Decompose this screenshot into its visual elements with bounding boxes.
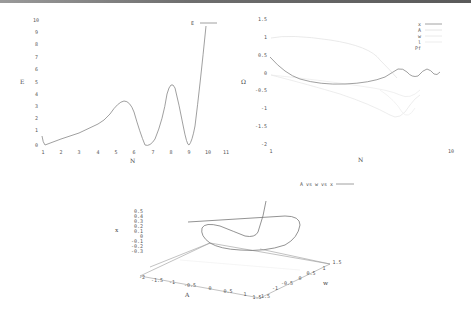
svg-text:1.5: 1.5 xyxy=(258,16,267,22)
svg-text:3: 3 xyxy=(77,149,80,155)
svg-text:-1: -1 xyxy=(169,279,175,285)
svg-text:-0.3: -0.3 xyxy=(131,248,143,254)
svg-text:1: 1 xyxy=(41,149,44,155)
svg-text:-2: -2 xyxy=(139,274,145,280)
svg-text:0.5: 0.5 xyxy=(306,270,315,276)
svg-text:3: 3 xyxy=(35,103,38,109)
series-x-line xyxy=(270,57,440,84)
x-axis-label: N xyxy=(358,156,363,163)
svg-text:Pf: Pf xyxy=(415,45,421,51)
svg-text:1: 1 xyxy=(35,127,38,133)
svg-text:4: 4 xyxy=(35,91,38,97)
svg-text:1: 1 xyxy=(264,34,267,40)
svg-text:-1.5: -1.5 xyxy=(151,277,163,283)
svg-text:7: 7 xyxy=(35,54,38,60)
x-tick-labels: 1 2 3 4 5 6 7 8 9 10 11 xyxy=(41,149,229,155)
legend-label: A vs w vs x xyxy=(300,181,333,187)
svg-text:8: 8 xyxy=(169,149,172,155)
chart-energy: 0 1 2 3 4 5 6 7 8 9 10 E 1 2 3 4 5 6 7 8… xyxy=(20,17,229,164)
svg-text:8: 8 xyxy=(35,41,38,47)
svg-text:-0.5: -0.5 xyxy=(184,282,196,288)
svg-text:4: 4 xyxy=(96,149,99,155)
x-tick-10: 10 xyxy=(448,148,454,154)
svg-text:0: 0 xyxy=(35,142,38,148)
y-tick-labels: 0 1 2 3 4 5 6 7 8 9 10 xyxy=(33,17,39,148)
chart-omega: 1.5 1 0.5 0 -0.5 -1 -1.5 -2 Ω 1 10 N x A… xyxy=(241,16,454,163)
chart-3d: A vs w vs x 0.5 0.4 0.3 0.2 0.1 0 -0.1 -… xyxy=(115,181,354,300)
svg-text:-1: -1 xyxy=(261,105,267,111)
svg-text:9: 9 xyxy=(187,149,190,155)
z-tick-labels: 0.5 0.4 0.3 0.2 0.1 0 -0.1 -0.2 -0.3 xyxy=(131,208,143,254)
svg-text:9: 9 xyxy=(35,29,38,35)
svg-text:-0.5: -0.5 xyxy=(255,87,267,93)
svg-text:5: 5 xyxy=(35,79,38,85)
x-tick-1: 1 xyxy=(269,148,272,154)
z-axis-label: x xyxy=(115,226,119,233)
legend-label-e: E xyxy=(191,20,194,26)
svg-text:10: 10 xyxy=(33,17,39,23)
svg-text:6: 6 xyxy=(35,66,38,72)
a-axis-label: A xyxy=(184,291,190,298)
legend: x A w l Pf xyxy=(415,21,442,51)
svg-text:0: 0 xyxy=(298,275,301,281)
svg-text:-0.5: -0.5 xyxy=(281,280,293,286)
base-plane xyxy=(140,243,330,298)
svg-text:0.5: 0.5 xyxy=(223,288,232,294)
y-tick-labels: 1.5 1 0.5 0 -0.5 -1 -1.5 -2 xyxy=(255,16,267,147)
svg-text:2: 2 xyxy=(59,149,62,155)
series-3d-line xyxy=(188,201,300,250)
svg-text:5: 5 xyxy=(114,149,117,155)
svg-text:11: 11 xyxy=(223,149,229,155)
svg-text:0.5: 0.5 xyxy=(258,52,267,58)
series-l-line xyxy=(271,75,420,117)
svg-text:0: 0 xyxy=(208,285,211,291)
svg-text:2: 2 xyxy=(35,115,38,121)
svg-text:1.5: 1.5 xyxy=(332,259,341,265)
svg-text:-1.5: -1.5 xyxy=(258,293,270,299)
y-axis-label: Ω xyxy=(241,78,246,85)
svg-text:-1: -1 xyxy=(272,285,278,291)
svg-text:6: 6 xyxy=(132,149,135,155)
series-e-line xyxy=(42,26,206,145)
svg-text:1: 1 xyxy=(322,265,325,271)
figure: 0 1 2 3 4 5 6 7 8 9 10 E 1 2 3 4 5 6 7 8… xyxy=(0,0,471,311)
y-axis-label: E xyxy=(20,78,24,85)
series-w-line xyxy=(271,75,420,97)
svg-text:0: 0 xyxy=(264,70,267,76)
series-a-line xyxy=(271,36,397,78)
svg-text:-2: -2 xyxy=(261,141,267,147)
svg-text:-1.5: -1.5 xyxy=(255,123,267,129)
svg-text:1: 1 xyxy=(243,291,246,297)
w-axis-label: w xyxy=(323,279,329,286)
x-axis-label: N xyxy=(130,157,135,164)
svg-text:10: 10 xyxy=(205,149,211,155)
svg-text:7: 7 xyxy=(151,149,154,155)
